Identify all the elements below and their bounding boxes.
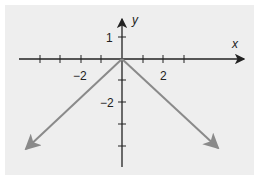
chart-frame: x y −2 2 1 −2	[0, 0, 255, 178]
x-tick-label-2: 2	[160, 69, 167, 83]
y-tick-label-1: 1	[106, 31, 113, 45]
x-axis-label: x	[231, 37, 239, 51]
x-tick-label-neg2: −2	[73, 69, 87, 83]
y-axis-label: y	[131, 13, 139, 27]
y-tick-label-neg2: −2	[100, 96, 114, 110]
graph-right-branch	[122, 59, 218, 148]
chart-plot: x y −2 2 1 −2	[0, 0, 255, 178]
